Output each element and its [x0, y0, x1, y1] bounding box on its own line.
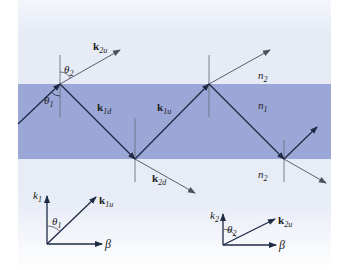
diagram-canvas: k2u k1d k1u k2d θ2 θ1 n2 n1 n2 — [0, 0, 349, 270]
inset-left-x-label: β — [104, 237, 111, 251]
inset-right-x-label: β — [278, 238, 285, 252]
waveguide-diagram: k2u k1d k1u k2d θ2 θ1 n2 n1 n2 — [0, 0, 349, 270]
